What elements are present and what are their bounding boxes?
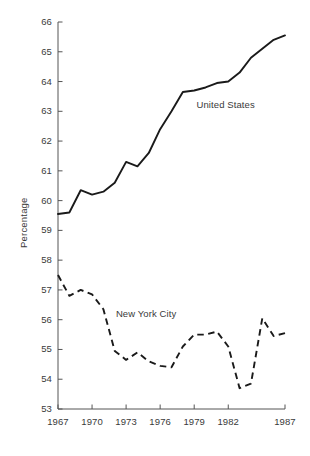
x-tick-label: 1973 <box>109 416 143 427</box>
y-tick-label: 59 <box>30 224 52 235</box>
y-axis-title: Percentage <box>18 197 29 248</box>
series-line-united-states <box>58 35 285 214</box>
y-tick-label: 63 <box>30 105 52 116</box>
y-tick-label: 61 <box>30 165 52 176</box>
y-axis-ticks <box>58 22 63 409</box>
y-tick-label: 58 <box>30 254 52 265</box>
x-tick-label: 1987 <box>268 416 302 427</box>
y-tick-label: 66 <box>30 16 52 27</box>
y-tick-label: 57 <box>30 284 52 295</box>
x-tick-label: 1967 <box>41 416 75 427</box>
x-tick-label: 1979 <box>177 416 211 427</box>
y-tick-label: 54 <box>30 373 52 384</box>
chart-figure: Percentage 6665646362616059585756555453 … <box>0 0 310 456</box>
y-tick-label: 56 <box>30 314 52 325</box>
axis-lines <box>58 22 285 409</box>
x-tick-label: 1976 <box>143 416 177 427</box>
x-axis-ticks <box>58 405 285 410</box>
series-line-new-york-city <box>58 275 285 388</box>
y-tick-label: 53 <box>30 403 52 414</box>
x-tick-label: 1982 <box>211 416 245 427</box>
series-annotation-new-york-city: New York City <box>116 308 176 319</box>
y-tick-label: 62 <box>30 135 52 146</box>
x-tick-label: 1970 <box>75 416 109 427</box>
y-tick-label: 64 <box>30 76 52 87</box>
y-tick-label: 60 <box>30 195 52 206</box>
y-tick-label: 65 <box>30 46 52 57</box>
series-annotation-united-states: United States <box>196 99 254 110</box>
y-tick-label: 55 <box>30 343 52 354</box>
